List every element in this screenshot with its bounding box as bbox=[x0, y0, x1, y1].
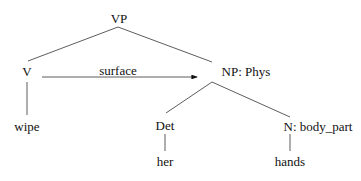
arrow-label-surface: surface bbox=[99, 64, 137, 77]
edge-vp-v bbox=[28, 27, 118, 61]
node-wipe: wipe bbox=[14, 120, 39, 133]
node-v: V bbox=[22, 65, 31, 78]
node-vp: VP bbox=[111, 12, 128, 25]
node-det: Det bbox=[156, 119, 175, 132]
node-her: her bbox=[157, 155, 174, 168]
edge-np-n bbox=[212, 82, 290, 117]
node-np-phys: NP: Phys bbox=[222, 65, 271, 78]
node-n-body-part: N: body_part bbox=[284, 120, 353, 133]
tree-edges bbox=[0, 0, 361, 181]
node-hands: hands bbox=[275, 155, 305, 168]
edge-vp-np bbox=[118, 27, 212, 62]
edge-np-det bbox=[166, 82, 212, 113]
syntax-tree-diagram: VP V NP: Phys wipe Det N: body_part her … bbox=[0, 0, 361, 181]
